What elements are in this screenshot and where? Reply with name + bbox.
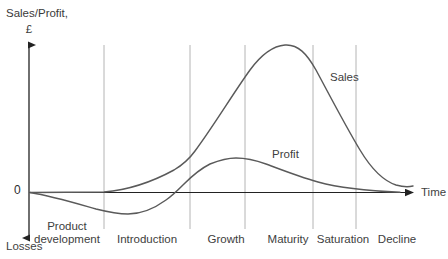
product-life-cycle-chart: Sales/Profit, £ 0 Losses Time Sales Prof… [0, 0, 448, 259]
stage-label-growth: Growth [207, 233, 244, 246]
x-axis-title: Time [421, 186, 446, 199]
y-axis-title-line2: £ [26, 23, 32, 36]
stage-label-maturity: Maturity [268, 233, 309, 246]
stage-label-product-development-line1: Product [47, 220, 87, 233]
stage-label-decline: Decline [378, 233, 416, 246]
stage-label-saturation: Saturation [317, 233, 369, 246]
stage-label-introduction: Introduction [117, 233, 177, 246]
stage-label-product-development-line2: development [34, 233, 100, 246]
profit-series-label: Profit [272, 148, 299, 161]
profit-curve [30, 158, 400, 214]
y-axis-title-line1: Sales/Profit, [6, 7, 68, 20]
zero-label: 0 [14, 184, 21, 197]
sales-series-label: Sales [330, 71, 359, 84]
